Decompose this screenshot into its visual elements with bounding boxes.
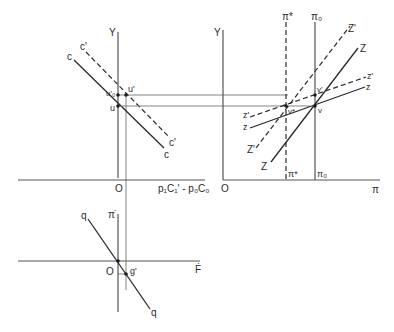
pi-star-label-bottom: π* <box>288 169 298 179</box>
Z-prime-label-upper: Z' <box>348 23 356 34</box>
point-u-prime-label: u' <box>128 84 135 94</box>
line-c-prime-label-top: c' <box>80 41 87 52</box>
line-c-prime-label-bottom: c' <box>169 137 176 148</box>
z-prime-label-upper: z' <box>367 71 374 81</box>
point-u-label: u <box>110 103 115 113</box>
z-label-upper: z <box>366 82 371 92</box>
line-q <box>88 219 150 309</box>
y-axis-label-left: Y <box>109 27 116 38</box>
Z-label-upper: Z <box>360 43 366 54</box>
Z-prime-label-lower: Z' <box>247 144 255 155</box>
point-u <box>116 104 120 108</box>
origin-label-right: O <box>221 183 229 194</box>
line-c-label-bottom: c <box>164 149 169 160</box>
pi0-label-bottom: π₀ <box>317 169 327 179</box>
economic-diagram: Y c' c c' c u'₀ u' u O p₁C₁' - p₀C₀ Y <box>0 0 394 332</box>
line-c <box>74 60 164 148</box>
top-left-panel: Y c' c c' c u'₀ u' u O p₁C₁' - p₀C₀ <box>18 27 310 290</box>
y-axis-label-right: Y <box>214 27 221 38</box>
pi0-label-top: π₀ <box>311 11 322 22</box>
x-axis-label-bottom: Ḟ <box>195 263 201 275</box>
pi-star-label-top: π* <box>282 11 293 22</box>
top-right-panel: Y π* π₀ Z' Z z' z z' z Z' Z v' v v* π* π… <box>214 11 380 195</box>
line-z <box>250 87 365 128</box>
point-g-prime-label: g' <box>130 266 137 276</box>
line-q-label-bottom: q <box>151 307 157 318</box>
bottom-panel: π̇ q q O g' Ḟ <box>18 209 201 318</box>
line-z-prime <box>250 77 366 117</box>
point-v-label: v <box>318 106 322 115</box>
y-axis-label-bottom: π̇ <box>108 209 116 220</box>
point-v <box>313 104 317 108</box>
point-u0-prime <box>116 93 120 97</box>
x-axis-label-right: π <box>372 184 379 195</box>
Z-label-lower: Z <box>261 161 267 172</box>
point-origin-bottom <box>116 259 120 263</box>
z-label-lower: z <box>243 122 248 132</box>
line-q-label-top: q <box>81 210 87 221</box>
point-u0-prime-label: u'₀ <box>106 89 115 98</box>
x-axis-label-left: p₁C₁' - p₀C₀ <box>158 183 209 194</box>
z-prime-label-lower: z' <box>243 110 250 120</box>
origin-label-left: O <box>115 183 123 194</box>
point-v-prime-label: v' <box>317 85 323 94</box>
point-v-star-label: v* <box>288 107 295 116</box>
point-g-prime <box>124 272 128 276</box>
origin-label-bottom: O <box>106 266 114 277</box>
line-c-label-top: c <box>67 51 72 62</box>
